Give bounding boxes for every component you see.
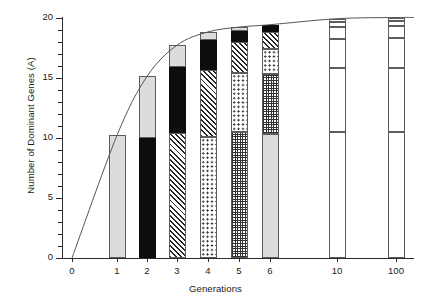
y-tick-label: 15 xyxy=(27,71,53,82)
x-tick-label: 3 xyxy=(162,265,192,276)
bar-segment xyxy=(200,137,217,258)
x-tick xyxy=(208,258,209,262)
y-tick-major xyxy=(56,18,62,19)
x-tick-label: 0 xyxy=(57,265,87,276)
y-tick-label: 10 xyxy=(27,131,53,142)
bar xyxy=(231,27,248,258)
bar-segment xyxy=(200,40,217,70)
bar-segment xyxy=(200,32,217,40)
x-tick xyxy=(270,258,271,262)
bar xyxy=(169,45,186,258)
x-axis-label: Generations xyxy=(0,283,431,294)
y-tick-major xyxy=(56,258,62,259)
x-tick xyxy=(72,258,73,262)
y-tick-minor xyxy=(58,114,62,115)
y-tick-minor xyxy=(58,54,62,55)
bar-segment xyxy=(388,68,405,132)
bar-segment xyxy=(169,133,186,258)
y-tick-minor xyxy=(58,126,62,127)
bar xyxy=(139,76,156,258)
x-axis-line xyxy=(62,258,414,259)
x-tick-label: 4 xyxy=(193,265,223,276)
bar xyxy=(262,25,279,258)
bar-segment xyxy=(262,25,279,32)
y-tick-label: 0 xyxy=(27,251,53,262)
chart-figure: Number of Dominant Genes (A) Generations… xyxy=(0,0,431,301)
bar-segment xyxy=(231,132,248,258)
y-tick-minor xyxy=(58,234,62,235)
y-tick-minor xyxy=(58,186,62,187)
y-tick-minor xyxy=(58,174,62,175)
bar-segment xyxy=(109,135,126,258)
bar-segment xyxy=(329,19,346,23)
x-tick xyxy=(147,258,148,262)
bar-segment xyxy=(262,32,279,49)
y-tick-major xyxy=(56,138,62,139)
bar-segment xyxy=(231,73,248,132)
y-tick-major xyxy=(56,78,62,79)
x-tick xyxy=(177,258,178,262)
x-tick xyxy=(239,258,240,262)
bar-segment xyxy=(262,74,279,134)
bar-segment xyxy=(139,138,156,258)
bar xyxy=(200,32,217,258)
bar xyxy=(329,19,346,258)
x-tick xyxy=(117,258,118,262)
bar-segment xyxy=(139,76,156,137)
bar-segment xyxy=(388,26,405,38)
bar-segment xyxy=(262,134,279,258)
bar-segment xyxy=(231,31,248,42)
bar-segment xyxy=(329,39,346,68)
bar-segment xyxy=(329,22,346,27)
y-tick-minor xyxy=(58,66,62,67)
bar-segment xyxy=(329,27,346,39)
bar-segment xyxy=(231,27,248,31)
bar-segment xyxy=(200,70,217,136)
x-tick xyxy=(396,258,397,262)
y-tick-minor xyxy=(58,150,62,151)
bar-segment xyxy=(169,67,186,133)
x-tick-label: 5 xyxy=(224,265,254,276)
y-tick-minor xyxy=(58,222,62,223)
y-tick-minor xyxy=(58,210,62,211)
y-tick-minor xyxy=(58,30,62,31)
bar-segment xyxy=(388,38,405,68)
y-tick-label: 20 xyxy=(27,11,53,22)
bar-segment xyxy=(388,21,405,26)
bar xyxy=(109,135,126,258)
y-tick-minor xyxy=(58,162,62,163)
y-tick-minor xyxy=(58,90,62,91)
x-tick-label: 1 xyxy=(102,265,132,276)
y-tick-minor xyxy=(58,246,62,247)
y-tick-label: 5 xyxy=(27,191,53,202)
bar-segment xyxy=(169,45,186,67)
x-tick-label: 6 xyxy=(255,265,285,276)
bar-segment xyxy=(388,18,405,22)
x-tick-label: 2 xyxy=(132,265,162,276)
bar-segment xyxy=(262,49,279,74)
x-tick xyxy=(337,258,338,262)
bar-segment xyxy=(231,42,248,73)
x-tick-label: 100 xyxy=(381,265,411,276)
bar xyxy=(388,18,405,259)
bar-segment xyxy=(329,132,346,258)
x-tick-label: 10 xyxy=(322,265,352,276)
bar-segment xyxy=(329,68,346,132)
y-tick-major xyxy=(56,198,62,199)
y-axis-line xyxy=(62,17,63,259)
bar-segment xyxy=(388,132,405,258)
y-tick-minor xyxy=(58,42,62,43)
y-tick-minor xyxy=(58,102,62,103)
